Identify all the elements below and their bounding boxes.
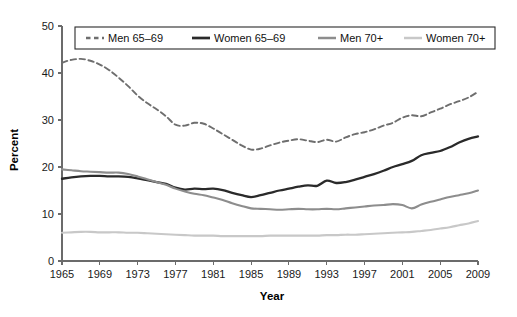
x-tick-label: 1997 bbox=[352, 268, 376, 280]
x-tick-label: 1981 bbox=[201, 268, 225, 280]
y-tick-label: 50 bbox=[42, 20, 54, 32]
x-axis-title: Year bbox=[260, 290, 285, 302]
x-tick-label: 2009 bbox=[466, 268, 490, 280]
chart-container: 01020304050 1965196919731977198119851989… bbox=[0, 0, 517, 317]
line-chart: 01020304050 1965196919731977198119851989… bbox=[0, 0, 517, 317]
x-tick-label: 1969 bbox=[88, 268, 112, 280]
chart-legend: Men 65–69Women 65–69Men 70+Women 70+ bbox=[75, 27, 495, 49]
legend-label-2: Women 65–69 bbox=[214, 32, 285, 44]
legend-label-3: Men 70+ bbox=[340, 32, 383, 44]
x-tick-label: 1993 bbox=[314, 268, 338, 280]
y-tick-label: 0 bbox=[48, 255, 54, 267]
x-tick-label: 1977 bbox=[163, 268, 187, 280]
x-tick-label: 1989 bbox=[277, 268, 301, 280]
y-tick-label: 40 bbox=[42, 67, 54, 79]
y-tick-label: 20 bbox=[42, 161, 54, 173]
x-tick-label: 2001 bbox=[390, 268, 414, 280]
x-tick-label: 1965 bbox=[50, 268, 74, 280]
y-tick-label: 10 bbox=[42, 208, 54, 220]
x-tick-label: 1985 bbox=[239, 268, 263, 280]
legend-label-4: Women 70+ bbox=[426, 32, 485, 44]
x-tick-label: 2005 bbox=[428, 268, 452, 280]
x-tick-label: 1973 bbox=[125, 268, 149, 280]
legend-label-1: Men 65–69 bbox=[108, 32, 163, 44]
y-axis-title: Percent bbox=[8, 129, 20, 171]
y-tick-label: 30 bbox=[42, 114, 54, 126]
